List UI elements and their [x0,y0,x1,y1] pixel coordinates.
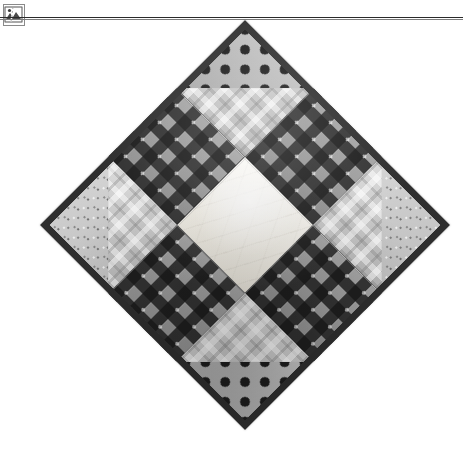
broken-image-icon[interactable] [3,4,25,26]
header-divider-top [0,17,463,18]
quilt-block [40,20,450,430]
quilt-binding [40,20,450,430]
page-canvas [0,0,463,451]
broken-image-glyph [4,5,24,25]
quilt-photo [45,20,445,430]
